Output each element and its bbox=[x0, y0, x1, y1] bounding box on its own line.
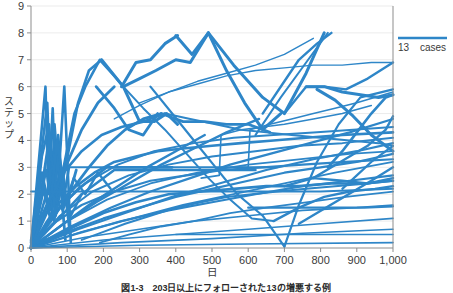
line-chart: 01002003004005006007008009001,000 012345… bbox=[0, 0, 453, 293]
y-tick-label: 6 bbox=[18, 81, 24, 93]
x-tick-label: 800 bbox=[311, 254, 329, 266]
y-tick-label: 9 bbox=[18, 0, 24, 12]
y-tick-label: 3 bbox=[18, 161, 24, 173]
legend-unit-label: cases bbox=[420, 42, 446, 53]
x-tick-label: 0 bbox=[28, 254, 34, 266]
y-tick-label: 2 bbox=[18, 188, 24, 200]
x-tick-label: 300 bbox=[130, 254, 148, 266]
y-tick-label: 4 bbox=[18, 134, 24, 146]
y-axis-title: ステップ bbox=[2, 96, 16, 140]
y-tick-label: 0 bbox=[18, 242, 24, 254]
x-tick-label: 700 bbox=[275, 254, 293, 266]
x-tick-label: 1,000 bbox=[379, 254, 407, 266]
x-tick-label: 500 bbox=[203, 254, 221, 266]
x-tick-label: 200 bbox=[94, 254, 112, 266]
y-tick-label: 1 bbox=[18, 215, 24, 227]
y-tick-label: 7 bbox=[18, 54, 24, 66]
figure-caption: 図1-3 203日以上にフォローされた13の増悪する例 bbox=[121, 282, 330, 293]
y-tick-label: 5 bbox=[18, 108, 24, 120]
x-tick-label: 400 bbox=[167, 254, 185, 266]
legend-count-label: 13 bbox=[398, 42, 410, 53]
x-axis-title: 日 bbox=[207, 266, 217, 278]
x-tick-label: 900 bbox=[348, 254, 366, 266]
x-tick-label: 600 bbox=[239, 254, 257, 266]
figure-container: 01002003004005006007008009001,000 012345… bbox=[0, 0, 453, 293]
x-tick-label: 100 bbox=[58, 254, 76, 266]
y-tick-label: 8 bbox=[18, 27, 24, 39]
